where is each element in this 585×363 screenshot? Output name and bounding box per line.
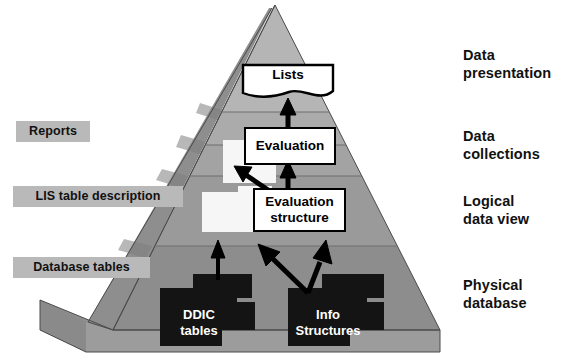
tag-database-tables: Database tables: [13, 257, 150, 278]
tag-lis-table-description: LIS table description: [13, 186, 183, 207]
pyramid-front-bands: [80, 0, 480, 336]
box-evaluation: Evaluation: [244, 127, 336, 165]
stage-label-logical-data-view: Logical data view: [463, 193, 529, 228]
stage-label-data-presentation: Data presentation: [463, 47, 551, 82]
box-lists-label: Lists: [241, 67, 335, 82]
tag-reports: Reports: [16, 121, 90, 142]
box-lists: Lists: [241, 63, 335, 99]
stage-label-physical-database: Physical database: [463, 277, 527, 312]
stack-label-info-structures: Info Structures: [288, 303, 368, 343]
stack-label-ddic-tables: DDIC tables: [160, 303, 238, 343]
box-evaluation-structure: Evaluation structure: [253, 188, 346, 232]
diagram-canvas: Data presentation Data collections Logic…: [0, 0, 585, 363]
stage-label-data-collections: Data collections: [463, 128, 540, 163]
